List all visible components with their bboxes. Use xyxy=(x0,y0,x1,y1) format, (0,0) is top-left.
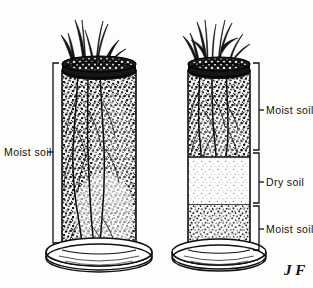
right-label-dry: Dry soil xyxy=(266,176,304,188)
figure-container: Moist soil xyxy=(0,0,313,288)
left-column-label: Moist soil xyxy=(4,146,52,158)
right-column-rim xyxy=(188,57,250,79)
left-column-rim xyxy=(62,56,136,80)
right-label-moist-upper: Moist soil xyxy=(266,104,313,116)
artist-signature: J F xyxy=(283,262,305,278)
soil-column-illustration: Moist soil xyxy=(0,0,313,288)
right-label-moist-lower: Moist soil xyxy=(266,223,313,235)
figure-background xyxy=(0,0,313,288)
